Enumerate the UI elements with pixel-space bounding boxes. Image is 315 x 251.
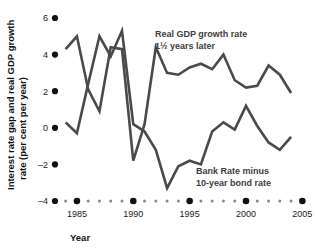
x-tick-dot-minor [222, 200, 225, 203]
x-tick-dot-minor [290, 200, 293, 203]
x-tick-dot-minor [109, 200, 112, 203]
line-chart: 6420–2–4 19851990199520002005 Year Inter… [0, 0, 315, 251]
y-axis-title-line2: rate (per cent per year) [17, 77, 28, 180]
x-tick-dot-major [74, 198, 81, 205]
x-axis-major-ticks [74, 198, 306, 205]
y-tick-dot [52, 52, 58, 58]
y-axis-ticks: 6420–2–4 [38, 13, 58, 206]
chart-page: 6420–2–4 19851990199520002005 Year Inter… [0, 0, 315, 251]
x-tick-label: 2000 [236, 209, 256, 219]
y-tick-label: 0 [43, 123, 48, 133]
x-tick-dot-major [130, 198, 137, 205]
x-tick-dot-minor [256, 200, 259, 203]
x-tick-label: 1995 [180, 209, 200, 219]
x-tick-dot-minor [143, 200, 146, 203]
x-tick-dot-minor [278, 200, 281, 203]
y-tick-dot [52, 161, 58, 167]
data-series-lines [66, 31, 291, 188]
x-tick-dot-major [243, 198, 250, 205]
x-tick-label: 1990 [123, 209, 143, 219]
annotation-gdp-line2: 1½ years later [155, 41, 216, 51]
annotation-gdp-line1: Real GDP growth rate [155, 29, 247, 39]
y-tick-dot [52, 88, 58, 94]
annotation-gap-line2: 10-year bond rate [196, 178, 271, 188]
y-tick-dot [52, 15, 58, 21]
x-tick-dot-minor [98, 200, 101, 203]
y-tick-dot [52, 125, 58, 131]
x-axis-tick-labels: 19851990199520002005 [67, 209, 312, 219]
x-tick-dot-minor [233, 200, 236, 203]
x-tick-dot-major [186, 198, 193, 205]
y-tick-label: 2 [43, 87, 48, 97]
x-tick-dot-minor [177, 200, 180, 203]
y-tick-label: –2 [38, 160, 48, 170]
x-tick-dot-minor [199, 200, 202, 203]
x-tick-dot-minor [211, 200, 214, 203]
y-tick-label: 6 [43, 13, 48, 23]
x-axis-title: Year [70, 232, 90, 243]
x-tick-label: 2005 [292, 209, 312, 219]
x-tick-dot-minor [64, 200, 67, 203]
x-tick-dot-minor [87, 200, 90, 203]
x-tick-dot-minor [166, 200, 169, 203]
y-axis-title-line1: Interest rate gap and real GDP growth [5, 19, 16, 190]
annotation-gap-line1: Bank Rate minus [196, 166, 269, 176]
x-tick-dot-minor [121, 200, 124, 203]
x-tick-dot-minor [154, 200, 157, 203]
y-tick-label: –4 [38, 196, 48, 206]
y-tick-dot [52, 198, 58, 204]
x-tick-dot-major [299, 198, 306, 205]
x-axis-minor-ticks [64, 200, 292, 203]
y-tick-label: 4 [43, 50, 48, 60]
series-line-gdp-growth [66, 36, 291, 160]
x-tick-dot-minor [267, 200, 270, 203]
x-tick-label: 1985 [67, 209, 87, 219]
